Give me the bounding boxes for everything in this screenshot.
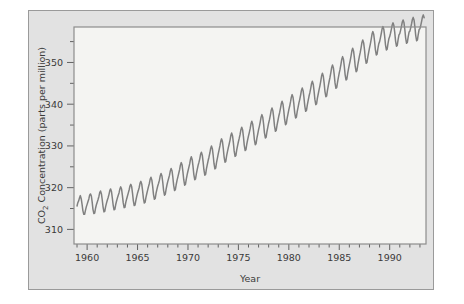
- x-axis-tick-labels: 1960196519701975198019851990: [75, 252, 402, 263]
- y-tick-label: 330: [45, 140, 63, 151]
- y-tick-label: 340: [45, 99, 63, 110]
- x-tick-label: 1960: [75, 252, 99, 263]
- x-tick-label: 1990: [378, 252, 402, 263]
- y-tick-label: 350: [45, 57, 63, 68]
- figure-container: 1960196519701975198019851990 31032033034…: [28, 10, 434, 290]
- x-axis-major-ticks: [87, 244, 390, 250]
- y-tick-label: 310: [45, 224, 63, 235]
- x-tick-label: 1965: [125, 252, 149, 263]
- x-axis-title: Year: [239, 273, 260, 284]
- y-axis-title: CO2 Concentration (parts per million): [36, 47, 50, 224]
- y-tick-label: 320: [45, 182, 63, 193]
- x-tick-label: 1975: [226, 252, 250, 263]
- co2-line-chart: 1960196519701975198019851990 31032033034…: [29, 11, 435, 291]
- plot-background: [74, 27, 426, 244]
- plot-wrapper: 1960196519701975198019851990 31032033034…: [29, 11, 433, 289]
- x-tick-label: 1980: [277, 252, 301, 263]
- svg-text:CO2 Concentration (parts per m: CO2 Concentration (parts per million): [36, 47, 50, 224]
- x-tick-label: 1985: [327, 252, 351, 263]
- y-axis-major-ticks: [67, 62, 74, 229]
- x-tick-label: 1970: [176, 252, 200, 263]
